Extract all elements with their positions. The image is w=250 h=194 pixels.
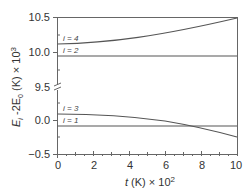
x-tick-labels: 0 2 4 6 8 10 <box>55 159 242 171</box>
x-tick-4: 4 <box>127 159 133 171</box>
y-tick-0.0: 0.0 <box>35 114 50 126</box>
y-tick-10.0: 10.0 <box>29 46 50 58</box>
label-i3: i = 3 <box>63 104 79 113</box>
x-tick-0: 0 <box>55 159 61 171</box>
label-i2: i = 2 <box>63 46 79 55</box>
curve-labels: i = 4 i = 2 i = 3 i = 1 <box>63 34 79 125</box>
plot-frame <box>54 17 238 155</box>
y-axis-title: Ei -2E0 (K) × 103 <box>9 46 24 127</box>
y-tick-neg-0.5: −0.5 <box>28 148 50 160</box>
axis-break-mark <box>54 87 61 90</box>
x-ticks <box>58 151 238 158</box>
x-tick-6: 6 <box>163 159 169 171</box>
curves <box>58 18 238 137</box>
chart: 10.5 10.0 9.5 0.0 −0.5 0 2 4 6 8 10 i = … <box>0 0 250 194</box>
label-i4: i = 4 <box>63 34 79 43</box>
x-tick-8: 8 <box>199 159 205 171</box>
x-tick-10: 10 <box>230 159 242 171</box>
x-tick-2: 2 <box>91 159 97 171</box>
y-tick-labels: 10.5 10.0 9.5 0.0 −0.5 <box>28 11 50 160</box>
y-tick-10.5: 10.5 <box>29 11 50 23</box>
curve-i4 <box>58 18 238 44</box>
label-i1: i = 1 <box>63 116 78 125</box>
x-axis-title: t (K) × 102 <box>125 175 176 188</box>
y-tick-9.5: 9.5 <box>35 81 50 93</box>
